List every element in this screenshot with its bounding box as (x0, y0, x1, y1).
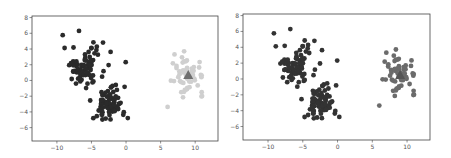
data-point (88, 98, 93, 103)
data-point (77, 29, 82, 34)
data-point (180, 55, 185, 60)
data-point (96, 52, 101, 57)
data-point (115, 88, 120, 93)
x-tick-label: −10 (51, 144, 64, 151)
data-point (288, 27, 293, 32)
data-point (103, 116, 108, 121)
data-point (300, 44, 305, 49)
data-point (319, 111, 324, 116)
data-point (165, 105, 170, 110)
y-tick-label: 6 (24, 29, 28, 36)
data-point (99, 107, 104, 112)
y-tick-label: 0 (235, 75, 239, 82)
data-point (313, 67, 318, 72)
y-tick-label: 2 (24, 61, 28, 68)
data-point (125, 116, 130, 121)
data-point (172, 52, 177, 57)
data-point (399, 83, 404, 88)
data-point (295, 57, 300, 62)
data-point (60, 33, 65, 38)
data-point (113, 83, 118, 88)
series-cluster-upper-left (60, 29, 128, 91)
data-point (324, 108, 329, 113)
data-point (273, 44, 278, 49)
data-point (108, 50, 113, 55)
data-point (84, 86, 89, 91)
data-point (106, 63, 111, 68)
plot-2: −10−50510−6−4−202468 (230, 12, 430, 150)
data-point (197, 65, 202, 70)
data-point (337, 115, 342, 120)
x-tick-label: −5 (298, 143, 307, 150)
data-point (310, 106, 315, 111)
data-point (113, 94, 118, 99)
data-point (109, 85, 114, 90)
data-point (200, 94, 205, 99)
data-point (319, 91, 324, 96)
y-tick-label: −6 (19, 124, 28, 131)
plot-1: −10−50510−6−4−202468 (19, 14, 218, 151)
x-tick-label: 10 (191, 144, 199, 151)
data-point (333, 109, 338, 114)
data-point (401, 65, 406, 70)
data-point (74, 81, 79, 86)
y-tick-label: −2 (230, 91, 239, 98)
data-point (99, 112, 104, 117)
data-point (315, 115, 320, 120)
figure: −10−50510−6−4−202468−10−50510−6−4−202468 (0, 0, 451, 158)
data-point (300, 56, 305, 61)
data-point (411, 72, 416, 77)
series-cluster-lower-middle (88, 83, 130, 122)
data-point (75, 66, 80, 71)
data-point (311, 73, 316, 78)
data-point (296, 69, 301, 74)
data-point (121, 110, 126, 115)
y-tick-label: −6 (230, 123, 239, 130)
x-tick-label: 5 (370, 143, 374, 150)
data-point (192, 78, 197, 83)
y-tick-label: 6 (235, 27, 239, 34)
data-point (69, 77, 74, 82)
data-point (318, 61, 323, 66)
data-point (311, 88, 316, 93)
data-point (386, 62, 391, 67)
data-point (391, 88, 396, 93)
data-point (86, 50, 91, 55)
data-point (94, 114, 99, 119)
data-point (409, 64, 414, 69)
data-point (84, 66, 89, 71)
data-point (285, 80, 290, 85)
data-point (111, 103, 116, 108)
data-point (384, 50, 389, 55)
data-point (189, 66, 194, 71)
x-tick-label: 10 (403, 143, 411, 150)
y-tick-label: 8 (235, 12, 239, 19)
data-point (181, 95, 186, 100)
data-point (391, 53, 396, 58)
data-point (312, 38, 317, 43)
data-point (84, 58, 89, 63)
y-tick-label: 4 (24, 45, 28, 52)
data-point (280, 59, 285, 64)
data-point (334, 83, 339, 88)
data-point (298, 48, 303, 53)
data-point (300, 72, 305, 77)
data-point (323, 102, 328, 107)
data-point (85, 81, 90, 86)
y-tick-label: −4 (230, 107, 239, 114)
scatter-plots: −10−50510−6−4−202468−10−50510−6−4−202468 (0, 0, 451, 158)
data-point (377, 103, 382, 108)
data-point (182, 49, 187, 54)
data-point (122, 84, 127, 89)
data-point (181, 81, 186, 86)
data-point (89, 74, 94, 79)
data-point (335, 58, 340, 63)
data-point (380, 77, 385, 82)
data-point (69, 61, 74, 66)
data-point (99, 90, 104, 95)
data-point (393, 79, 398, 84)
data-point (299, 97, 304, 102)
data-point (320, 83, 325, 88)
data-point (174, 64, 179, 69)
data-point (88, 63, 93, 68)
